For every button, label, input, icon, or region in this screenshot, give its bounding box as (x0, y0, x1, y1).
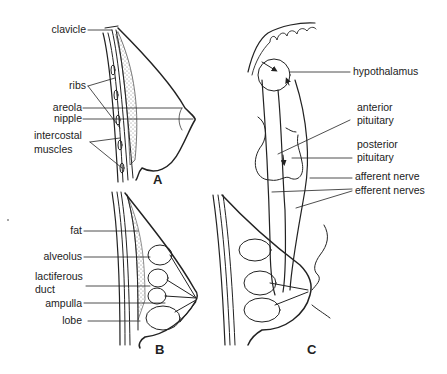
label-anterior: anterior (357, 101, 393, 114)
label-clavicle: clavicle (40, 23, 86, 36)
panel-label-c: C (307, 342, 316, 357)
label-anterior-pituitary: pituitary (357, 114, 394, 127)
panel-a-leaders (83, 30, 193, 168)
label-muscles: muscles (34, 143, 73, 156)
label-ribs: ribs (40, 79, 86, 92)
label-lobe: lobe (40, 314, 82, 327)
label-posterior-pituitary: pituitary (357, 151, 394, 164)
label-ampulla: ampulla (30, 297, 82, 310)
label-intercostal: intercostal (34, 129, 82, 142)
label-duct: duct (35, 283, 55, 296)
panel-label-a: A (153, 172, 162, 187)
panel-b-drawing (112, 192, 197, 348)
label-fat: fat (40, 224, 82, 237)
label-alveolus: alveolus (30, 250, 82, 263)
scan-artifact-dot (7, 219, 9, 221)
label-nipple: nipple (30, 112, 82, 125)
panel-label-b: B (155, 342, 164, 357)
label-posterior: posterior (357, 138, 398, 151)
label-efferent-nerves: efferent nerves (355, 184, 425, 197)
breast-anatomy-diagram: clavicle ribs areola nipple intercostal … (0, 0, 447, 374)
label-lactiferous: lactiferous (35, 270, 83, 283)
panel-a-drawing (103, 26, 195, 182)
panel-c-drawing (213, 23, 330, 345)
label-hypothalamus: hypothalamus (353, 65, 418, 78)
label-afferent-nerve: afferent nerve (355, 170, 420, 183)
